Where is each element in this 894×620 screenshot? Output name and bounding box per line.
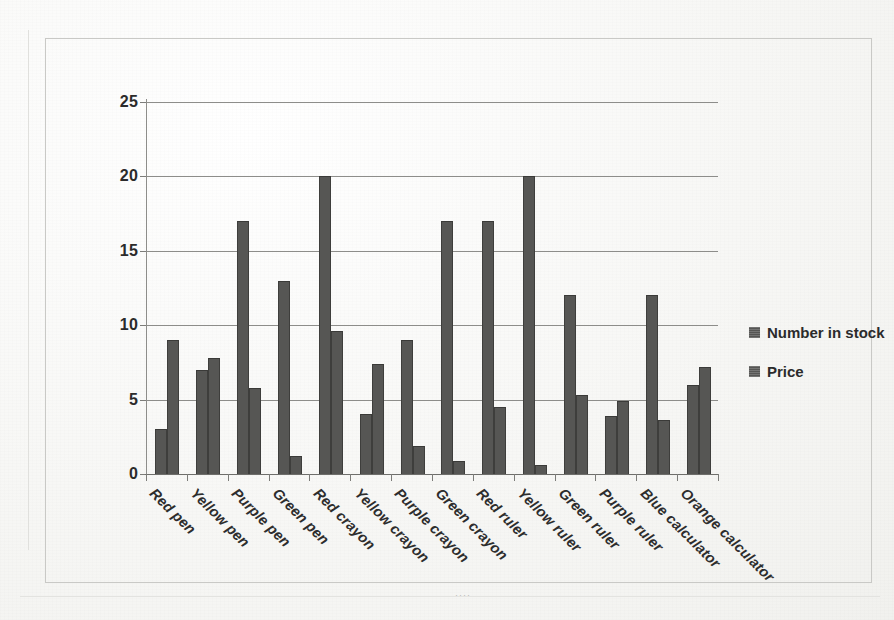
bar[interactable] <box>453 461 465 474</box>
y-axis-label-5: 5 <box>129 391 138 409</box>
bar[interactable] <box>494 407 506 474</box>
bar-series-container <box>146 102 718 474</box>
category-tick <box>473 474 474 481</box>
bar-group[interactable] <box>278 102 302 474</box>
bar[interactable] <box>208 358 220 474</box>
bar-group[interactable] <box>441 102 465 474</box>
bar[interactable] <box>576 395 588 474</box>
bar[interactable] <box>155 429 167 474</box>
bar-group[interactable] <box>155 102 179 474</box>
y-axis-label-25: 25 <box>120 93 138 111</box>
legend-label: Number in stock <box>767 324 885 341</box>
bar[interactable] <box>167 340 179 474</box>
bar[interactable] <box>401 340 413 474</box>
legend-item[interactable]: Price <box>749 363 894 380</box>
chart-frame[interactable]: 0510152025 Red penYellow penPurple penGr… <box>45 38 872 583</box>
bar-group[interactable] <box>523 102 547 474</box>
bar[interactable] <box>687 385 699 474</box>
y-axis-label-20: 20 <box>120 167 138 185</box>
bar-group[interactable] <box>605 102 629 474</box>
bar-group[interactable] <box>564 102 588 474</box>
bar[interactable] <box>605 416 617 474</box>
bar[interactable] <box>237 221 249 474</box>
category-tick <box>228 474 229 481</box>
bar[interactable] <box>413 446 425 474</box>
category-tick <box>146 474 147 481</box>
y-axis-label-15: 15 <box>120 242 138 260</box>
legend-item[interactable]: Number in stock <box>749 324 894 341</box>
bar[interactable] <box>319 176 331 474</box>
category-tick <box>718 474 719 481</box>
bar-group[interactable] <box>319 102 343 474</box>
y-axis-label-10: 10 <box>120 316 138 334</box>
bar[interactable] <box>564 295 576 474</box>
category-tick <box>269 474 270 481</box>
bar[interactable] <box>441 221 453 474</box>
category-label: Green crayon <box>433 485 511 563</box>
category-tick <box>391 474 392 481</box>
scan-edge-left <box>28 30 29 550</box>
legend-swatch-number-in-stock <box>749 327 760 338</box>
bar-group[interactable] <box>687 102 711 474</box>
bar[interactable] <box>290 456 302 474</box>
bar[interactable] <box>482 221 494 474</box>
category-tick <box>432 474 433 481</box>
y-axis-tick-labels: 0510152025 <box>104 102 138 474</box>
legend-label: Price <box>767 363 804 380</box>
category-tick <box>350 474 351 481</box>
category-tick <box>555 474 556 481</box>
bar[interactable] <box>535 465 547 474</box>
category-tick <box>636 474 637 481</box>
bar-group[interactable] <box>196 102 220 474</box>
bar-group[interactable] <box>360 102 384 474</box>
bar-group[interactable] <box>401 102 425 474</box>
category-axis-labels: Red penYellow penPurple penGreen penRed … <box>146 485 746 615</box>
bar[interactable] <box>658 420 670 474</box>
category-tick <box>677 474 678 481</box>
bar[interactable] <box>523 176 535 474</box>
category-tick <box>595 474 596 481</box>
bar[interactable] <box>331 331 343 474</box>
category-tick <box>309 474 310 481</box>
bar[interactable] <box>372 364 384 474</box>
bar-group[interactable] <box>237 102 261 474</box>
y-axis-label-0: 0 <box>129 465 138 483</box>
bar[interactable] <box>249 388 261 474</box>
bar[interactable] <box>196 370 208 474</box>
bar[interactable] <box>360 414 372 474</box>
bar-group[interactable] <box>482 102 506 474</box>
chart-legend[interactable]: Number in stockPrice <box>749 324 894 402</box>
bar[interactable] <box>278 281 290 474</box>
bar[interactable] <box>646 295 658 474</box>
category-tick <box>514 474 515 481</box>
bar[interactable] <box>617 401 629 474</box>
bar[interactable] <box>699 367 711 474</box>
legend-swatch-price <box>749 366 760 377</box>
category-tick <box>187 474 188 481</box>
bar-group[interactable] <box>646 102 670 474</box>
